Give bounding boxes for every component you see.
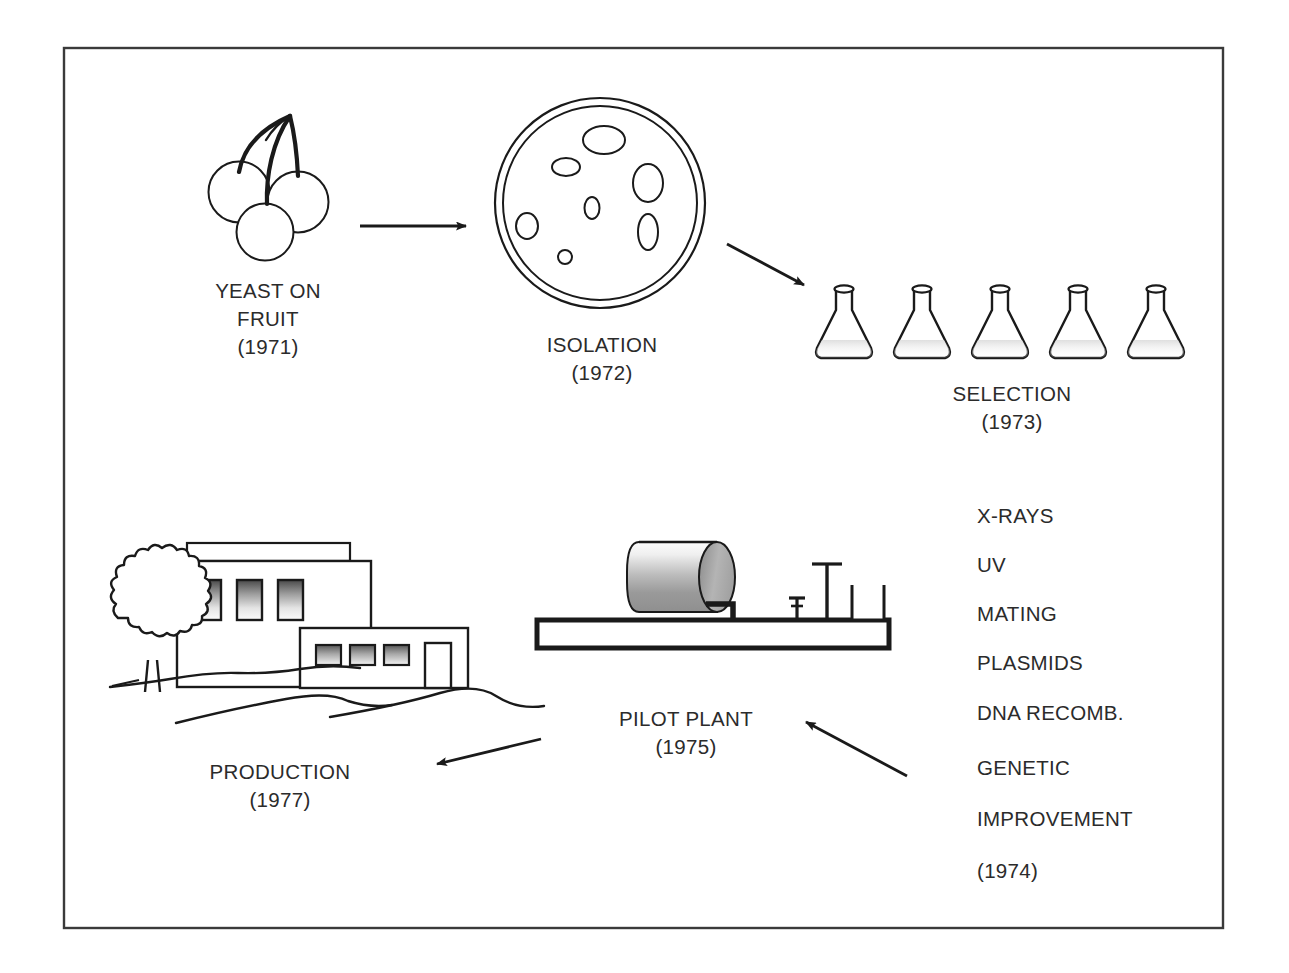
arrow-pilot-plant-to-production <box>437 739 541 764</box>
factory-window <box>278 580 303 620</box>
tree-trunk <box>145 660 148 692</box>
production-year: (1977) <box>249 788 310 811</box>
factory-wing-window <box>316 645 341 665</box>
colony <box>516 213 538 239</box>
pilot-plant-label: PILOT PLANT <box>619 707 753 730</box>
isolation-label: ISOLATION <box>547 333 658 356</box>
factory-icon <box>110 543 544 723</box>
colony <box>633 164 663 202</box>
colony <box>558 250 572 264</box>
genetic-method-x-rays: X-RAYS <box>977 504 1054 527</box>
yeast-on-fruit-label-line2: FRUIT <box>237 307 299 330</box>
factory-wing-window <box>350 645 375 665</box>
colony <box>638 214 658 250</box>
yeast-on-fruit-label-line1: YEAST ON <box>215 279 321 302</box>
erlenmeyer-flasks-group <box>816 285 1184 358</box>
isolation-year: (1972) <box>571 361 632 384</box>
arrow-genetics-to-pilot-plant <box>806 722 907 776</box>
pilot-plant-icon <box>537 536 889 648</box>
ground-line-mid <box>176 695 392 723</box>
flask-3 <box>972 285 1028 358</box>
genetic-method-dna-recomb: DNA RECOMB. <box>977 701 1124 724</box>
genetic-improvement-heading-line1: GENETIC <box>977 756 1070 779</box>
factory-window <box>237 580 262 620</box>
colony <box>583 126 625 154</box>
diagram-canvas: YEAST ON FRUIT (1971) ISOLATION (1972) <box>0 0 1289 973</box>
tree-canopy <box>111 545 211 636</box>
genetic-improvement-year: (1974) <box>977 859 1038 882</box>
genetic-improvement-heading-line2: IMPROVEMENT <box>977 807 1133 830</box>
genetic-method-plasmids: PLASMIDS <box>977 651 1083 674</box>
process-flow-diagram: YEAST ON FRUIT (1971) ISOLATION (1972) <box>0 0 1289 973</box>
arrow-isolation-to-selection <box>727 244 804 285</box>
selection-year: (1973) <box>981 410 1042 433</box>
deck-valve-icon <box>789 598 805 620</box>
yeast-on-fruit-year: (1971) <box>237 335 298 358</box>
flask-4 <box>1050 285 1106 358</box>
factory-wing-window <box>384 645 409 665</box>
factory-roof-band <box>187 543 350 561</box>
colony <box>552 158 580 176</box>
flask-5 <box>1128 285 1184 358</box>
flask-2 <box>894 285 950 358</box>
colony <box>585 197 600 219</box>
pilot-plant-year: (1975) <box>655 735 716 758</box>
selection-label: SELECTION <box>953 382 1072 405</box>
ground-line-lower <box>330 689 544 717</box>
production-label: PRODUCTION <box>210 760 351 783</box>
genetic-method-mating: MATING <box>977 602 1057 625</box>
genetic-method-uv: UV <box>977 553 1006 576</box>
deck-box <box>852 585 884 620</box>
petri-dish-icon <box>495 98 705 308</box>
tree-trunk <box>157 660 160 692</box>
flask-1 <box>816 285 872 358</box>
deck-pole-icon <box>812 564 842 620</box>
factory-door <box>425 643 451 688</box>
platform <box>537 620 889 648</box>
cherries-icon <box>209 116 329 261</box>
